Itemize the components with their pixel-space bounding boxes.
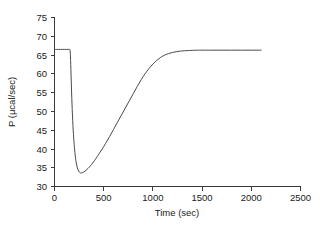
- x-tick-label-1500: 1500: [192, 192, 213, 203]
- chart-plot-area: 75 70 65 60 55 50 45 40 35 30 0 500 1000…: [0, 0, 320, 233]
- y-tick-label-70: 70: [36, 31, 47, 42]
- y-tick-label-50: 50: [36, 106, 47, 117]
- y-tick-label-55: 55: [36, 87, 47, 98]
- y-axis-ticks: [51, 18, 55, 187]
- y-tick-label-65: 65: [36, 50, 47, 61]
- x-axis-ticks: [55, 187, 301, 191]
- x-tick-label-1000: 1000: [142, 192, 163, 203]
- chart-figure: 75 70 65 60 55 50 45 40 35 30 0 500 1000…: [0, 0, 320, 233]
- x-tick-label-2000: 2000: [241, 192, 262, 203]
- y-tick-label-60: 60: [36, 68, 47, 79]
- y-tick-label-30: 30: [36, 181, 47, 192]
- y-tick-label-35: 35: [36, 162, 47, 173]
- x-tick-label-500: 500: [96, 192, 112, 203]
- y-tick-labels: 75 70 65 60 55 50 45 40 35 30: [36, 12, 47, 192]
- x-axis-title: Time (sec): [155, 207, 200, 218]
- x-tick-label-2500: 2500: [290, 192, 311, 203]
- x-tick-labels: 0 500 1000 1500 2000 2500: [52, 192, 311, 203]
- x-tick-label-0: 0: [52, 192, 57, 203]
- y-tick-label-40: 40: [36, 144, 47, 155]
- y-tick-label-45: 45: [36, 125, 47, 136]
- y-tick-label-75: 75: [36, 12, 47, 23]
- power-trace-curve: [55, 49, 262, 173]
- y-axis-title: P (μcal/sec): [6, 77, 17, 127]
